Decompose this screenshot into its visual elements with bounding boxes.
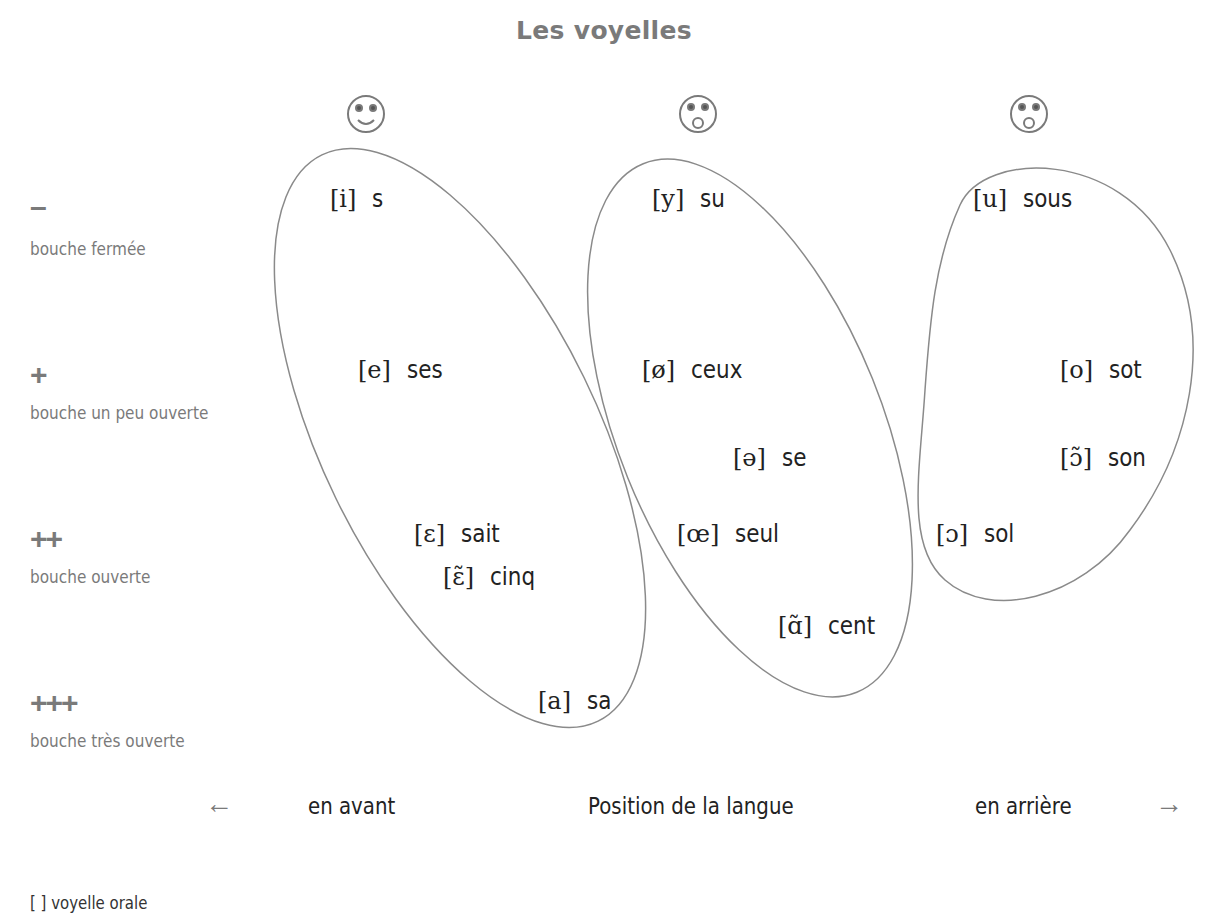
example-word: sol [984, 519, 1014, 548]
ipa-symbol: [u] [973, 185, 1007, 213]
example-word: son [1108, 443, 1146, 472]
vowel-entry: [i]s [330, 184, 385, 213]
vowel-entry: [ɔ̃]son [1060, 443, 1152, 472]
example-word: sot [1109, 355, 1142, 384]
example-word: se [782, 443, 806, 472]
vowel-diagram-shapes [0, 0, 1208, 919]
row-label-open: bouche ouverte [30, 566, 150, 587]
vowel-entry: [y]su [652, 184, 729, 213]
ipa-symbol: [ɛ̃] [443, 563, 474, 591]
row-symbol-open: ++ [30, 524, 61, 554]
example-word: sait [461, 519, 500, 548]
vowel-entry: [œ]seul [677, 519, 787, 548]
front-rounded-group-outline [521, 114, 979, 741]
vowel-entry: [ɑ̃]cent [778, 611, 883, 640]
smiling-face-icon [348, 96, 384, 132]
arrow-right-icon: → [1155, 788, 1183, 820]
ipa-symbol: [ə] [733, 444, 766, 472]
rounded-mouth-face-icon [1011, 96, 1047, 132]
example-word: seul [735, 519, 779, 548]
example-word: sa [587, 686, 611, 715]
ipa-symbol: [e] [358, 356, 391, 384]
axis-label-tongue-position: Position de la langue [588, 793, 794, 819]
ipa-symbol: [y] [652, 185, 684, 213]
row-label-very-open: bouche très ouverte [30, 730, 185, 751]
vowel-entry: [ø]ceux [642, 355, 751, 384]
vowel-entry: [a]sa [538, 686, 615, 715]
row-symbol-very-open: +++ [30, 688, 77, 718]
example-word: ses [407, 355, 443, 384]
vowel-entry: [o]sot [1060, 355, 1147, 384]
vowel-entry: [u]sous [973, 184, 1080, 213]
example-word: cent [828, 611, 875, 640]
ipa-symbol: [o] [1060, 356, 1093, 384]
ipa-symbol: [ɔ] [936, 520, 968, 548]
legend-oral-vowel: [ ] voyelle orale [30, 893, 147, 913]
example-word: ceux [691, 355, 742, 384]
vowel-entry: [ə]se [733, 443, 810, 472]
vowel-entry: [ɛ]sait [414, 519, 506, 548]
ipa-symbol: [œ] [677, 520, 719, 548]
example-word: cinq [490, 562, 535, 591]
example-word: su [700, 184, 725, 213]
ipa-symbol: [ɑ̃] [778, 612, 812, 640]
axis-label-front: en avant [308, 793, 395, 819]
vowel-entry: [ɛ̃]cinq [443, 562, 543, 591]
row-label-closed: bouche fermée [30, 238, 146, 259]
rounded-mouth-face-icon [680, 96, 716, 132]
front-unrounded-group-outline [198, 94, 722, 781]
ipa-symbol: [ɔ̃] [1060, 444, 1092, 472]
vowel-entry: [ɔ]sol [936, 519, 1019, 548]
ipa-symbol: [ø] [642, 356, 675, 384]
arrow-left-icon: ← [205, 788, 233, 820]
example-word: sous [1023, 184, 1072, 213]
ipa-symbol: [i] [330, 185, 356, 213]
row-symbol-slightly-open: + [30, 360, 46, 390]
ipa-symbol: [a] [538, 687, 571, 715]
vowel-entry: [e]ses [358, 355, 448, 384]
axis-label-back: en arrière [975, 793, 1072, 819]
row-symbol-closed: – [30, 192, 45, 222]
example-word: s [372, 184, 383, 213]
row-label-slightly-open: bouche un peu ouverte [30, 402, 208, 423]
ipa-symbol: [ɛ] [414, 520, 445, 548]
